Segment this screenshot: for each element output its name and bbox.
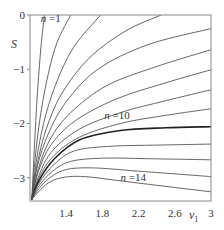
- y-axis-ticks: 0−1−2−3: [13, 9, 30, 184]
- x-tick-label: 1.4: [59, 207, 73, 219]
- x-axis-label: v1: [189, 208, 198, 224]
- annotations: n =1n =10n =14: [41, 12, 147, 184]
- x-tick-label: 3: [208, 207, 214, 219]
- y-tick-label: −3: [13, 172, 25, 184]
- y-axis-label: S: [11, 37, 17, 51]
- curve-annotation: n =1: [41, 12, 61, 24]
- x-tick-label: 2.2: [132, 207, 146, 219]
- x-tick-label: 1.8: [96, 207, 110, 219]
- x-tick-label: 2.6: [168, 207, 182, 219]
- y-tick-label: −2: [13, 117, 25, 129]
- y-tick-label: 0: [20, 9, 26, 21]
- x-axis-label-sub: 1: [194, 215, 198, 224]
- y-tick-label: −1: [13, 63, 25, 75]
- curve-annotation: n =10: [104, 109, 130, 121]
- chart: 0−1−2−3 1.41.82.22.63 S v1 n =1n =10n =1…: [0, 0, 224, 230]
- curve-annotation: n =14: [121, 171, 147, 183]
